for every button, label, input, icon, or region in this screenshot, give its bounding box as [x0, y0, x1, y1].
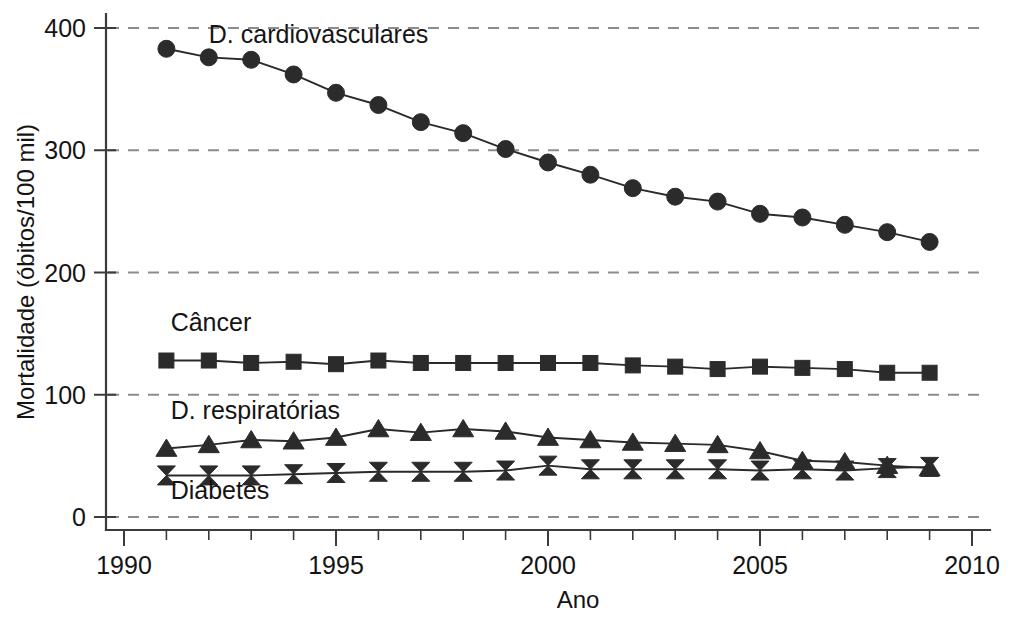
x-tick-label-2005: 2005: [732, 551, 788, 579]
marker-cancer-1993: [244, 355, 259, 370]
y-tick-labels-group: 0100200300400: [44, 14, 86, 531]
marker-d-cardiovasculares-2007: [836, 216, 853, 233]
marker-d-cardiovasculares-2002: [624, 180, 641, 197]
marker-d-cardiovasculares-2003: [667, 188, 684, 205]
marker-d-cardiovasculares-1999: [497, 141, 514, 158]
marker-cancer-2008: [880, 365, 895, 380]
marker-cancer-1997: [413, 355, 428, 370]
mortality-line-chart: 19901995200020052010 0100200300400 D. ca…: [0, 0, 1012, 628]
marker-cancer-1999: [498, 355, 513, 370]
marker-cancer-1995: [329, 357, 344, 372]
marker-cancer-1992: [201, 353, 216, 368]
marker-d-cardiovasculares-2001: [582, 166, 599, 183]
marker-d-respiratorias-1996: [368, 419, 389, 436]
x-tick-label-1995: 1995: [308, 551, 364, 579]
marker-d-cardiovasculares-1996: [370, 97, 387, 114]
marker-cancer-2005: [753, 359, 768, 374]
marker-d-cardiovasculares-1995: [328, 84, 345, 101]
x-tick-labels-group: 19901995200020052010: [96, 551, 1000, 579]
y-tick-label-100: 100: [44, 381, 86, 409]
chart-canvas: 19901995200020052010 0100200300400 D. ca…: [0, 0, 1012, 628]
series-label-d-cardiovasculares: D. cardiovasculares: [209, 20, 429, 48]
x-tick-label-2010: 2010: [944, 551, 1000, 579]
marker-cancer-2002: [625, 358, 640, 373]
series-labels-group: D. cardiovascularesCâncerD. respiratória…: [171, 20, 429, 504]
marker-d-cardiovasculares-1992: [200, 49, 217, 66]
marker-d-cardiovasculares-1991: [158, 40, 175, 57]
series-markers-cancer: [159, 353, 937, 380]
series-label-cancer: Câncer: [171, 308, 252, 336]
marker-d-cardiovasculares-1993: [243, 51, 260, 68]
marker-d-cardiovasculares-1997: [412, 114, 429, 131]
y-tick-label-400: 400: [44, 14, 86, 42]
marker-cancer-2000: [541, 355, 556, 370]
x-ticks-group: [124, 530, 972, 546]
marker-cancer-1996: [371, 353, 386, 368]
marker-d-cardiovasculares-2008: [879, 224, 896, 241]
marker-d-cardiovasculares-2009: [921, 233, 938, 250]
marker-d-cardiovasculares-2004: [709, 193, 726, 210]
marker-d-cardiovasculares-2000: [540, 154, 557, 171]
y-tick-label-300: 300: [44, 136, 86, 164]
marker-d-cardiovasculares-1998: [455, 125, 472, 142]
marker-d-respiratorias-1998: [453, 419, 474, 436]
series-label-diabetes: Diabetes: [171, 476, 270, 504]
marker-cancer-2007: [837, 362, 852, 377]
series-label-d-respiratorias: D. respiratórias: [171, 396, 341, 424]
marker-cancer-2006: [795, 360, 810, 375]
marker-cancer-2004: [710, 362, 725, 377]
marker-cancer-1998: [456, 355, 471, 370]
marker-d-cardiovasculares-2005: [752, 205, 769, 222]
marker-d-cardiovasculares-2006: [794, 209, 811, 226]
marker-cancer-1991: [159, 353, 174, 368]
marker-d-respiratorias-1993: [241, 430, 262, 447]
y-tick-label-200: 200: [44, 259, 86, 287]
y-tick-label-0: 0: [72, 503, 86, 531]
y-axis-title: Mortalidade (óbitos/100 mil): [12, 124, 39, 420]
x-tick-label-1990: 1990: [96, 551, 152, 579]
marker-cancer-1994: [286, 354, 301, 369]
marker-cancer-2001: [583, 355, 598, 370]
x-axis-title: Ano: [557, 586, 600, 613]
x-tick-label-2000: 2000: [520, 551, 576, 579]
series-markers-d-cardiovasculares: [158, 40, 938, 250]
marker-d-cardiovasculares-1994: [285, 66, 302, 83]
marker-cancer-2009: [922, 365, 937, 380]
series-line-d-cardiovasculares: [166, 49, 929, 242]
marker-cancer-2003: [668, 359, 683, 374]
